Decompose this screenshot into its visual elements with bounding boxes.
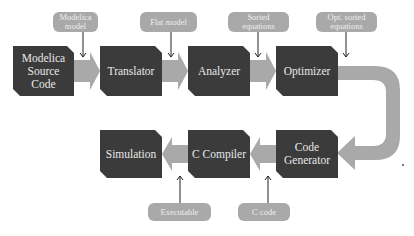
box-label: Optimizer [284,65,331,78]
box-label-line: Code [31,78,55,90]
box-label-line: Source [28,65,60,77]
annotation-line: Executable [161,208,199,217]
annotation-line: equations [242,21,275,31]
box-translator: Translator [100,46,162,96]
flow-arrow-optimizer-codegen [337,66,400,170]
annotation-executable: Executable [148,203,211,221]
annotation-line: C code [252,208,276,217]
box-code-generator: CodeGenerator [276,130,338,178]
flow-arrow-analyzer-optimizer [250,52,276,90]
box-optimizer: Optimizer [276,46,338,96]
annotation-line: Flat model [150,18,187,27]
flow-arrow-translator-analyzer [162,52,188,90]
annotation-opt-sorted-equations: Opt. sortedequations [316,12,377,32]
stray-dot [402,164,404,166]
box-label: C Compiler [192,148,246,161]
arrows-layer [0,0,414,236]
annotation-line: model [65,21,86,31]
box-simulation: Simulation [100,130,162,178]
flow-arrow-compiler-simulation [162,137,188,171]
box-label-line: Generator [284,154,330,166]
annotation-line: equations [330,21,363,31]
box-label-line: Modelica [22,52,65,64]
annotation-flat-model: Flat model [140,12,197,32]
flow-arrow-codegen-compiler [250,137,276,171]
box-label: Analyzer [198,65,240,78]
annotation-modelica-model: Modelicamodel [53,12,98,32]
flow-arrow-source-translator [74,52,100,90]
box-label: Simulation [106,148,156,161]
compiler-pipeline-diagram: Modelicamodel Flat model Sortedequations… [0,0,414,236]
annotation-c-code: C code [238,203,290,221]
box-c-compiler: C Compiler [188,130,250,178]
box-label: Translator [108,65,155,78]
box-label-line: Code [295,141,319,153]
box-analyzer: Analyzer [188,46,250,96]
box-modelica-source-code: ModelicaSourceCode [13,46,74,96]
annotation-sorted-equations: Sortedequations [228,12,289,32]
